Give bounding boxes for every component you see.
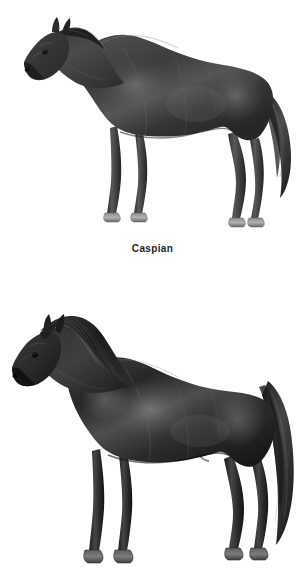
figure-caption-caspian: Caspian — [0, 243, 305, 254]
figure-second-horse — [0, 283, 305, 582]
horse-standing-left-icon — [0, 0, 305, 235]
figure-caspian: Caspian — [0, 0, 305, 265]
front-legs — [104, 126, 148, 222]
illustration-plate-page: Caspian — [0, 0, 305, 582]
front-legs — [84, 449, 133, 563]
horse-standing-left-icon — [0, 283, 305, 582]
hind-legs — [228, 132, 264, 227]
hind-legs — [224, 455, 268, 560]
